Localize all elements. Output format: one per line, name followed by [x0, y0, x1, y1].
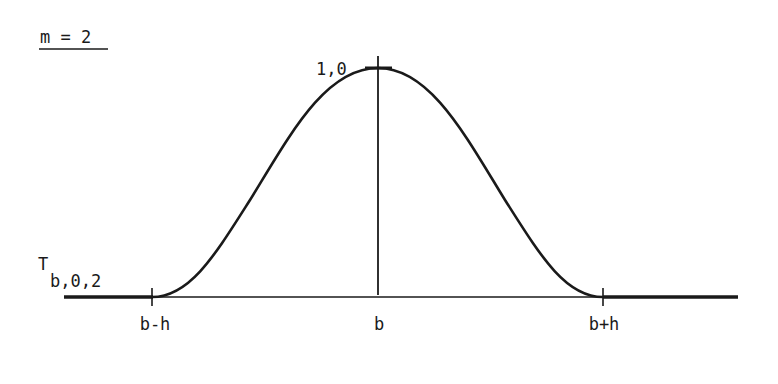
function-label-main: T [38, 254, 48, 274]
bump-function-diagram: m = 2 1,0 T b,0,2 b-h b b+h [0, 0, 778, 384]
tick-label-b-minus-h: b-h [140, 314, 171, 334]
function-label-subscript: b,0,2 [50, 271, 101, 291]
tick-label-b: b [374, 314, 384, 334]
tick-label-b-plus-h: b+h [589, 314, 620, 334]
case-label: m = 2 [40, 27, 91, 47]
peak-value-label: 1,0 [316, 59, 347, 79]
